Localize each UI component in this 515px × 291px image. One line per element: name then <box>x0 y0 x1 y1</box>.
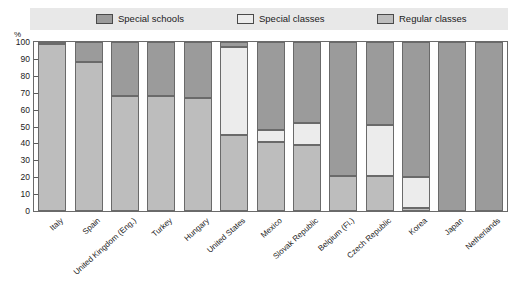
y-axis-tickmark <box>34 127 38 128</box>
segment-special-schools <box>329 42 357 176</box>
segment-special-classes <box>366 125 394 176</box>
legend-swatch-special-schools <box>96 14 113 24</box>
segment-special-schools <box>111 42 139 96</box>
legend-item-regular-classes: Regular classes <box>377 12 467 26</box>
segment-regular-classes <box>366 176 394 211</box>
bar-united-states <box>220 42 248 211</box>
y-axis-tickmark <box>34 143 38 144</box>
bar-belgium-fl <box>329 42 357 211</box>
x-axis-label-korea: Korea <box>407 216 429 237</box>
y-axis-tickmark <box>34 160 38 161</box>
segment-regular-classes <box>293 145 321 211</box>
y-axis-tickmark <box>34 194 38 195</box>
segment-special-schools <box>75 42 103 62</box>
x-axis-label-italy: Italy <box>48 216 65 233</box>
bar-united-kingdom-eng <box>111 42 139 211</box>
y-axis-tick-60: 60 <box>8 106 30 114</box>
segment-regular-classes <box>257 142 285 211</box>
x-axis-label-spain: Spain <box>80 216 101 236</box>
x-axis-tick-labels: ItalySpainUnited Kingdom (Eng.)TurkeyHun… <box>0 212 515 291</box>
bar-korea <box>402 42 430 211</box>
segment-special-classes <box>257 130 285 142</box>
bar-hungary <box>184 42 212 211</box>
bar-japan <box>438 42 466 211</box>
plot-area <box>34 42 507 211</box>
x-axis-label-united-kingdom-eng: United Kingdom (Eng.) <box>72 216 138 277</box>
x-axis-label-netherlands: Netherlands <box>464 216 502 252</box>
segment-special-schools <box>220 42 248 47</box>
y-axis-tick-100: 100 <box>8 38 30 46</box>
y-axis-tick-80: 80 <box>8 72 30 80</box>
y-axis-tick-50: 50 <box>8 123 30 131</box>
y-axis-tickmark <box>34 76 38 77</box>
x-axis-label-hungary: Hungary <box>182 216 211 243</box>
bar-spain <box>75 42 103 211</box>
y-axis-tick-labels: 1009080706050403020100 <box>2 42 30 211</box>
bar-italy <box>38 42 66 211</box>
segment-regular-classes <box>220 135 248 211</box>
bar-slovak-republic <box>293 42 321 211</box>
chart-legend: Special schools Special classes Regular … <box>30 8 508 30</box>
segment-regular-classes <box>75 62 103 211</box>
bar-turkey <box>147 42 175 211</box>
legend-label-regular-classes: Regular classes <box>399 14 467 24</box>
segment-regular-classes <box>38 44 66 211</box>
segment-regular-classes <box>184 98 212 211</box>
x-axis-label-japan: Japan <box>443 216 465 237</box>
y-axis-tick-70: 70 <box>8 89 30 97</box>
y-axis-tickmark <box>34 59 38 60</box>
segment-special-schools <box>366 42 394 125</box>
segment-special-schools <box>257 42 285 130</box>
segment-special-classes <box>220 47 248 135</box>
legend-label-special-schools: Special schools <box>118 14 184 24</box>
y-axis-tick-30: 30 <box>8 156 30 164</box>
segment-special-schools <box>438 42 466 211</box>
segment-special-schools <box>38 42 66 44</box>
y-axis-tick-90: 90 <box>8 55 30 63</box>
segment-special-schools <box>147 42 175 96</box>
segment-special-classes <box>402 177 430 207</box>
segment-special-classes <box>293 123 321 145</box>
segment-regular-classes <box>329 176 357 211</box>
y-axis-tickmark <box>34 93 38 94</box>
segment-special-schools <box>293 42 321 123</box>
segment-special-schools <box>475 42 503 211</box>
legend-swatch-regular-classes <box>377 14 394 24</box>
segment-special-schools <box>402 42 430 177</box>
legend-item-special-schools: Special schools <box>96 12 184 26</box>
x-axis-label-turkey: Turkey <box>150 216 174 239</box>
y-axis-tick-20: 20 <box>8 173 30 181</box>
y-axis-tickmark <box>34 110 38 111</box>
bar-czech-republic <box>366 42 394 211</box>
y-axis-tick-40: 40 <box>8 139 30 147</box>
y-axis-tick-10: 10 <box>8 190 30 198</box>
bar-mexico <box>257 42 285 211</box>
bar-netherlands <box>475 42 503 211</box>
segment-regular-classes <box>111 96 139 211</box>
x-axis-label-mexico: Mexico <box>259 216 284 240</box>
legend-label-special-classes: Special classes <box>259 14 324 24</box>
segment-regular-classes <box>402 208 430 211</box>
legend-swatch-special-classes <box>237 14 254 24</box>
y-axis-tickmark <box>34 177 38 178</box>
segment-regular-classes <box>147 96 175 211</box>
legend-item-special-classes: Special classes <box>237 12 324 26</box>
stacked-bar-chart: Special schools Special classes Regular … <box>0 0 515 291</box>
segment-special-schools <box>184 42 212 98</box>
x-axis-label-united-states: United States <box>205 216 247 255</box>
